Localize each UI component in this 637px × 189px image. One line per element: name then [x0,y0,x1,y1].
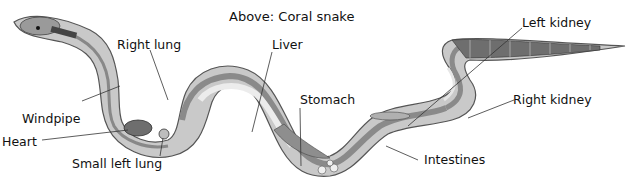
label-small-left-lung: Small left lung [72,156,162,171]
small-left-lung-organ [159,129,169,139]
label-intestines: Intestines [424,152,485,167]
diagram-title: Above: Coral snake [229,9,354,24]
label-left-kidney: Left kidney [522,15,592,30]
snake-anatomy-diagram: Above: Coral snake Left kidney Right lun… [0,0,637,189]
heart-organ [124,120,152,136]
label-right-lung: Right lung [117,37,181,52]
label-liver: Liver [272,37,304,52]
kidney-organ [370,112,410,120]
label-stomach: Stomach [300,92,355,107]
label-right-kidney: Right kidney [513,92,592,107]
label-windpipe: Windpipe [22,111,81,126]
label-heart: Heart [2,134,37,149]
